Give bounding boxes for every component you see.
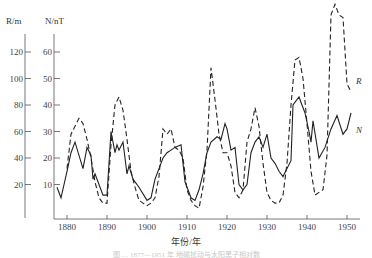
r-axis: R/m 20406080100120 — [6, 16, 31, 218]
x-tick-label: 1910 — [178, 222, 197, 232]
r-tick-label: 120 — [10, 47, 24, 57]
n-tick-label: 30 — [43, 127, 53, 137]
series-label-n: N — [355, 125, 363, 135]
series-n-solid-line — [57, 97, 351, 200]
n-tick-label: 50 — [43, 74, 53, 84]
r-tick-label: 40 — [14, 153, 24, 163]
r-tick-label: 60 — [14, 127, 24, 137]
plot-area — [57, 4, 351, 208]
x-tick-label: 1930 — [258, 222, 277, 232]
n-axis: N/nT 102030405060 — [43, 16, 65, 219]
x-tick-label: 1920 — [218, 222, 237, 232]
x-tick-label: 1880 — [58, 222, 77, 232]
x-tick-label: 1900 — [138, 222, 157, 232]
x-axis: 18801890190019101920193019401950 年份/年 — [54, 215, 360, 247]
n-tick-label: 10 — [43, 180, 53, 190]
r-tick-label: 80 — [14, 100, 24, 110]
x-axis-ticks: 18801890190019101920193019401950 — [58, 215, 357, 232]
figure-caption: 图 … 1877—1951 年 地磁扰动与太阳黑子相对数 — [113, 250, 260, 258]
r-axis-title: R/m — [6, 16, 22, 26]
x-axis-title: 年份/年 — [171, 236, 201, 247]
r-axis-ticks: 20406080100120 — [10, 47, 32, 190]
n-tick-label: 20 — [43, 153, 53, 163]
r-tick-label: 20 — [14, 180, 24, 190]
chart-root: R/m 20406080100120 N/nT 102030405060 188… — [0, 0, 372, 258]
series-label-r: R — [355, 76, 362, 86]
x-tick-label: 1890 — [98, 222, 117, 232]
r-tick-label: 100 — [10, 74, 24, 84]
n-tick-label: 40 — [43, 100, 53, 110]
n-axis-title: N/nT — [45, 16, 65, 26]
x-tick-label: 1950 — [338, 222, 357, 232]
n-tick-label: 60 — [43, 47, 53, 57]
n-axis-ticks: 102030405060 — [43, 47, 60, 190]
series-r-dashed-line — [67, 4, 351, 208]
x-tick-label: 1940 — [298, 222, 317, 232]
